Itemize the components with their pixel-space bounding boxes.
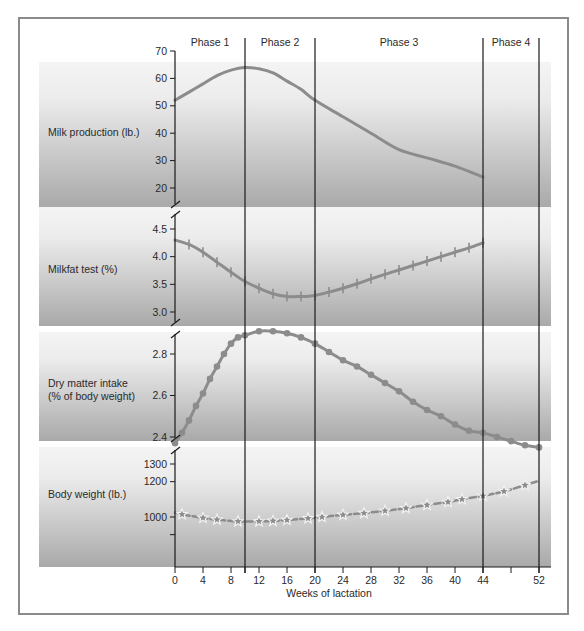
- panel-label: (% of body weight): [48, 390, 135, 402]
- phase-label: Phase 4: [492, 36, 531, 48]
- x-tick-label: 20: [309, 574, 321, 586]
- y-tick-label: 1300: [144, 458, 168, 470]
- circle-marker: [522, 442, 529, 449]
- circle-marker: [270, 328, 277, 335]
- x-tick-label: 52: [533, 574, 545, 586]
- circle-marker: [410, 398, 417, 405]
- phase-label: Phase 3: [380, 36, 419, 48]
- y-tick-label: 3.5: [152, 278, 167, 290]
- panel-background: [39, 447, 551, 567]
- circle-marker: [508, 438, 515, 445]
- y-tick-label: 1000: [144, 511, 168, 523]
- x-tick-label: 40: [449, 574, 461, 586]
- phase-label: Phase 1: [191, 36, 230, 48]
- circle-marker: [298, 334, 305, 341]
- y-tick-label: 2.4: [152, 431, 167, 443]
- x-tick-label: 16: [281, 574, 293, 586]
- y-tick-label: 40: [155, 127, 167, 139]
- panel-label: Milkfat test (%): [48, 263, 117, 275]
- y-tick-label: 20: [155, 182, 167, 194]
- x-tick-label: 0: [172, 574, 178, 586]
- y-tick-label: 2.8: [152, 348, 167, 360]
- x-tick-label: 8: [228, 574, 234, 586]
- y-tick-label: 2.6: [152, 389, 167, 401]
- y-tick-label: 1200: [144, 475, 168, 487]
- x-tick-label: 36: [421, 574, 433, 586]
- panel-label: Body weight (lb.): [48, 488, 126, 500]
- y-tick-label: 50: [155, 99, 167, 111]
- circle-marker: [438, 413, 445, 420]
- y-tick-label: 4.0: [152, 250, 167, 262]
- circle-marker: [326, 349, 333, 356]
- x-tick-label: 44: [477, 574, 489, 586]
- panel-label: Dry matter intake: [48, 377, 128, 389]
- x-tick-label: 32: [393, 574, 405, 586]
- x-axis-title: Weeks of lactation: [286, 587, 372, 599]
- x-tick-label: 24: [337, 574, 349, 586]
- circle-marker: [228, 340, 235, 347]
- circle-marker: [200, 390, 207, 397]
- lactation-chart: Phase 1Phase 2Phase 3Phase 4706050403020…: [0, 0, 584, 631]
- x-tick-label: 4: [200, 574, 206, 586]
- circle-marker: [214, 363, 221, 370]
- circle-marker: [186, 417, 193, 424]
- circle-marker: [235, 334, 242, 341]
- x-tick-label: 28: [365, 574, 377, 586]
- x-tick-label: 12: [253, 574, 265, 586]
- y-tick-label: 4.5: [152, 223, 167, 235]
- circle-marker: [193, 403, 200, 410]
- circle-marker: [284, 330, 291, 337]
- y-tick-label: 3.0: [152, 306, 167, 318]
- circle-marker: [368, 371, 375, 378]
- circle-marker: [382, 380, 389, 387]
- circle-marker: [256, 328, 263, 335]
- y-tick-label: 30: [155, 154, 167, 166]
- y-tick-label: 60: [155, 72, 167, 84]
- circle-marker: [494, 434, 501, 441]
- circle-marker: [466, 427, 473, 434]
- circle-marker: [452, 421, 459, 428]
- panel-label: Milk production (lb.): [48, 126, 140, 138]
- circle-marker: [207, 376, 214, 383]
- circle-marker: [221, 351, 228, 358]
- phase-label: Phase 2: [261, 36, 300, 48]
- circle-marker: [424, 407, 431, 414]
- circle-marker: [396, 388, 403, 395]
- circle-marker: [340, 357, 347, 364]
- circle-marker: [354, 363, 361, 370]
- y-tick-label: 70: [155, 45, 167, 57]
